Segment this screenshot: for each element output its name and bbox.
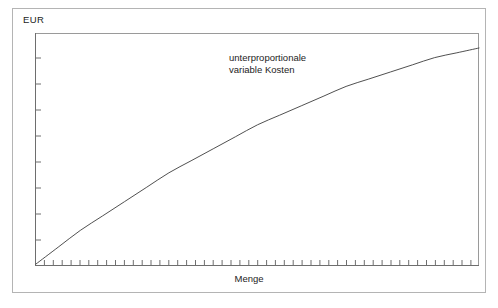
- curve-annotation-line-2: variable Kosten: [229, 64, 306, 76]
- cost-curve-line: [36, 48, 479, 264]
- curve-annotation-line-1: unterproportionale: [229, 52, 306, 64]
- y-axis-ticks: [36, 58, 42, 240]
- curve-annotation: unterproportionale variable Kosten: [229, 52, 306, 77]
- x-axis-ticks: [44, 260, 471, 266]
- x-axis-label: Menge: [13, 273, 485, 284]
- chart-figure-container: EUR: [12, 8, 486, 293]
